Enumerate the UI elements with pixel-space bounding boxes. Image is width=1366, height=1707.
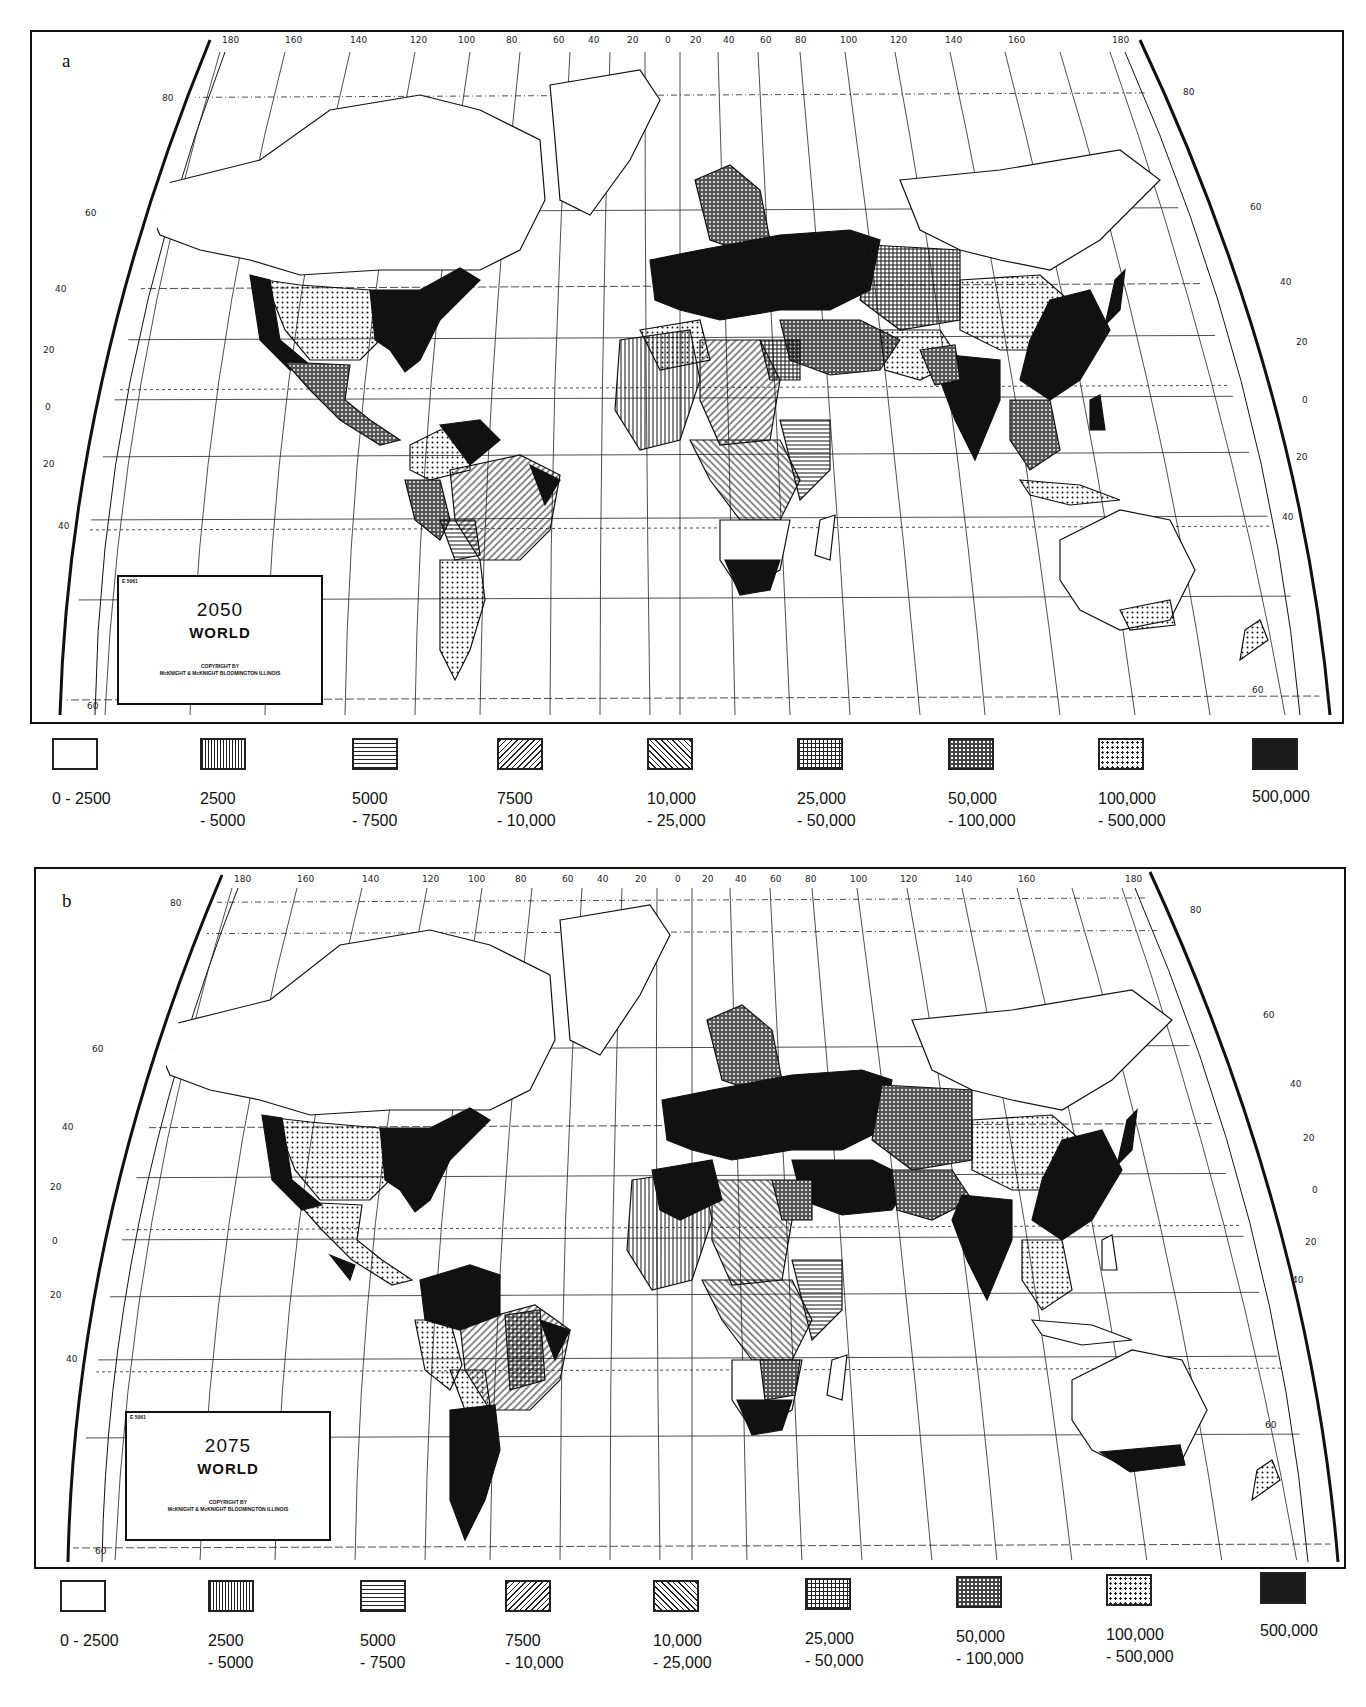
- lon-label: 40: [597, 874, 609, 884]
- legend-item: 100,000- 500,000: [1098, 738, 1248, 832]
- lat-label: 20: [1296, 337, 1308, 347]
- lat-label: 40: [66, 1354, 78, 1364]
- swatch-blank-icon: [60, 1580, 106, 1612]
- lat-label: 80: [170, 898, 182, 908]
- lat-label: 40: [1290, 1079, 1302, 1089]
- legend-item: 10,000- 25,000: [653, 1580, 803, 1674]
- region-philippines: [1090, 395, 1105, 430]
- swatch-grid-icon: [805, 1578, 851, 1610]
- region-usa-east: [380, 1108, 490, 1212]
- lon-label: 40: [735, 874, 747, 884]
- region-pakistan: [920, 345, 960, 385]
- lon-label: 120: [900, 874, 917, 884]
- region-bolivia: [450, 1370, 490, 1410]
- legend-label-2: - 50,000: [797, 810, 947, 832]
- region-usa-east: [370, 268, 480, 372]
- lon-label: 120: [410, 35, 427, 45]
- region-japan: [1117, 1110, 1137, 1165]
- region-south-africa: [725, 560, 780, 595]
- region-indonesia: [1032, 1320, 1132, 1345]
- lon-label: 40: [588, 35, 600, 45]
- map-code: E 5061: [122, 578, 138, 584]
- lon-label: 160: [1008, 35, 1025, 45]
- lat-label: 20: [1303, 1133, 1315, 1143]
- map-title-box: E 5061 2075 WORLD COPYRIGHT BY McKNIGHT …: [125, 1411, 331, 1541]
- region-russia-central: [860, 245, 960, 330]
- lon-label: 180: [1125, 874, 1142, 884]
- region-india: [952, 1195, 1012, 1300]
- lat-label: 20: [43, 459, 55, 469]
- lat-label: 0: [1302, 395, 1308, 405]
- legend-label-2: - 50,000: [805, 1650, 955, 1672]
- lat-label: 60: [92, 1044, 104, 1054]
- legend-label: 500,000: [1260, 1620, 1366, 1642]
- legend-label-2: - 500,000: [1106, 1646, 1256, 1668]
- swatch-diagonal-backward-icon: [647, 738, 693, 770]
- legend-label: 50,000: [956, 1626, 1106, 1648]
- panel-letter: b: [62, 890, 72, 912]
- lat-label: 40: [62, 1122, 74, 1132]
- lon-label: 60: [553, 35, 565, 45]
- legend-item: 2500- 5000: [208, 1580, 358, 1674]
- legend-item: 50,000- 100,000: [956, 1576, 1106, 1670]
- lon-label: 20: [635, 874, 647, 884]
- lon-label: 160: [297, 874, 314, 884]
- lat-label: 40: [1280, 277, 1292, 287]
- map-year: 2050: [119, 599, 321, 621]
- swatch-solid-black-icon: [1260, 1572, 1306, 1604]
- legend-label-2: - 500,000: [1098, 810, 1248, 832]
- lat-label: 60: [1250, 202, 1262, 212]
- legend-label: 2500: [208, 1630, 358, 1652]
- legend-label: 10,000: [647, 788, 797, 810]
- lon-label: 160: [285, 35, 302, 45]
- region-madagascar: [815, 515, 835, 560]
- region-canada: [140, 95, 545, 275]
- lon-label: 80: [506, 35, 518, 45]
- map-title-box: E 5061 2050 WORLD COPYRIGHT BY McKNIGHT …: [117, 575, 323, 705]
- swatch-grid-icon: [797, 738, 843, 770]
- legend-item: 100,000- 500,000: [1106, 1574, 1256, 1668]
- lon-label: 60: [760, 35, 772, 45]
- lon-label: 120: [890, 35, 907, 45]
- lat-label: 80: [162, 93, 174, 103]
- legend-label-2: - 5000: [208, 1652, 358, 1674]
- lon-label: 60: [562, 874, 574, 884]
- swatch-horizontal-lines-icon: [352, 738, 398, 770]
- lat-label: 40: [55, 284, 67, 294]
- region-mexico: [297, 1202, 412, 1285]
- region-se-asia: [1010, 400, 1060, 470]
- lat-label: 0: [52, 1236, 58, 1246]
- swatch-vertical-lines-icon: [208, 1580, 254, 1612]
- region-se-asia: [1022, 1240, 1072, 1310]
- lon-label: 160: [1018, 874, 1035, 884]
- lon-label: 180: [1112, 35, 1129, 45]
- lon-label: 100: [850, 874, 867, 884]
- region-central-africa: [702, 1280, 812, 1360]
- swatch-solid-black-icon: [1252, 738, 1298, 770]
- lon-label: 180: [234, 874, 251, 884]
- legend-item: 10,000- 25,000: [647, 738, 797, 832]
- legend-label: 0 - 2500: [60, 1630, 210, 1652]
- legend-label-2: - 100,000: [948, 810, 1098, 832]
- region-indonesia: [1020, 480, 1120, 505]
- legend-label: 7500: [505, 1630, 655, 1652]
- swatch-diagonal-forward-icon: [497, 738, 543, 770]
- legend-label-2: - 100,000: [956, 1648, 1106, 1670]
- region-south-africa: [737, 1400, 792, 1435]
- legend-label: 25,000: [805, 1628, 955, 1650]
- lon-label: 140: [362, 874, 379, 884]
- lat-label: 40: [58, 521, 70, 531]
- lat-label: 0: [45, 402, 51, 412]
- region-bolivia: [440, 520, 480, 560]
- copyright-publisher: McKNIGHT & McKNIGHT BLOOMINGTON ILLINOIS: [127, 1506, 329, 1512]
- region-europe: [650, 230, 880, 320]
- legend-label: 7500: [497, 788, 647, 810]
- lat-label: 60: [87, 701, 99, 711]
- lat-label: 60: [1252, 685, 1264, 695]
- legend-item: 50,000- 100,000: [948, 738, 1098, 832]
- region-greenland: [550, 70, 660, 215]
- legend-label-2: - 10,000: [497, 810, 647, 832]
- map-panel-2050: 180 160 140 120 100 80 60 40 20 0 20 40 …: [0, 0, 1366, 850]
- map-region: WORLD: [127, 1460, 329, 1477]
- swatch-vertical-lines-icon: [200, 738, 246, 770]
